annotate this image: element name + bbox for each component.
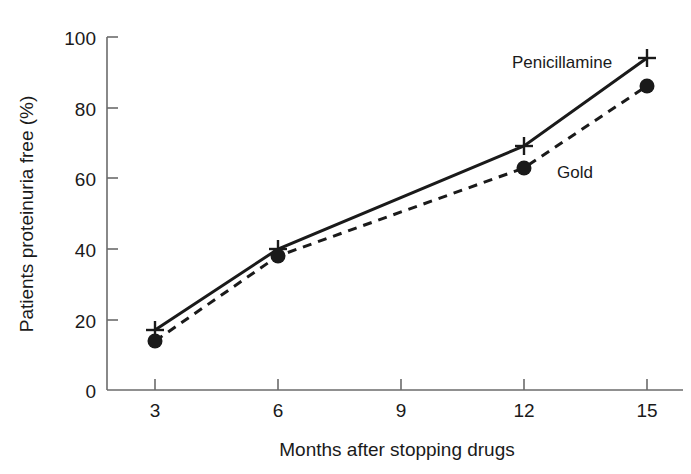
x-tick-label-9: 9 — [396, 400, 407, 421]
marker-circle-3 — [148, 334, 163, 349]
x-tick-label-15: 15 — [636, 400, 657, 421]
y-tick-labels: 100 80 60 40 20 0 — [64, 28, 96, 402]
x-tick-label-3: 3 — [150, 400, 161, 421]
y-tick-label-60: 60 — [75, 169, 96, 190]
y-tick-label-20: 20 — [75, 311, 96, 332]
y-tick-label-40: 40 — [75, 240, 96, 261]
marker-circle-15 — [640, 79, 655, 94]
x-tick-label-6: 6 — [273, 400, 284, 421]
y-axis-ticks — [107, 37, 118, 320]
x-tick-label-12: 12 — [513, 400, 534, 421]
chart-figure: 100 80 60 40 20 0 3 6 9 12 15 Months aft… — [0, 0, 691, 474]
y-axis-title: Patients proteinuria free (%) — [16, 96, 37, 333]
series-label-gold: Gold — [557, 163, 593, 182]
marker-circle-6 — [271, 249, 286, 264]
y-tick-label-80: 80 — [75, 99, 96, 120]
x-axis-ticks — [155, 379, 647, 390]
series-line-penicillamine — [155, 58, 647, 330]
y-tick-label-100: 100 — [64, 28, 96, 49]
y-tick-label-0: 0 — [85, 381, 96, 402]
x-tick-labels: 3 6 9 12 15 — [150, 400, 658, 421]
marker-circle-12 — [517, 161, 532, 176]
series-label-penicillamine: Penicillamine — [512, 53, 612, 72]
x-axis-title: Months after stopping drugs — [279, 439, 515, 460]
series-line-gold — [155, 86, 647, 341]
chart-plot-area: 100 80 60 40 20 0 3 6 9 12 15 Months aft… — [0, 0, 691, 474]
